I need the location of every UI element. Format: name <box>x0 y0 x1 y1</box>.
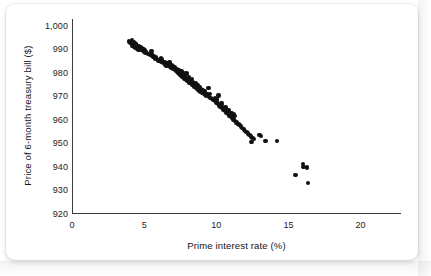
data-point <box>159 57 163 61</box>
data-point <box>143 50 147 54</box>
data-point <box>275 139 279 143</box>
data-point <box>305 165 309 169</box>
plot-area <box>72 19 401 214</box>
x-axis-title: Prime interest rate (%) <box>72 240 401 251</box>
x-tick-label: 0 <box>69 221 74 230</box>
x-tick-label: 15 <box>283 221 293 230</box>
data-point <box>175 68 179 72</box>
data-point <box>216 93 220 97</box>
x-tick-label: 5 <box>142 221 147 230</box>
data-point <box>249 140 253 144</box>
data-point <box>306 181 310 185</box>
figure-page: 9209309409509609709809901,000 05101520 P… <box>0 0 431 276</box>
data-point <box>293 173 297 177</box>
scatter-chart: 9209309409509609709809901,000 05101520 P… <box>0 0 431 276</box>
data-point <box>164 61 168 65</box>
x-tick-label: 10 <box>211 221 221 230</box>
data-point <box>263 139 267 143</box>
x-axis-tick-labels: 05101520 <box>0 221 431 235</box>
data-point <box>231 112 235 116</box>
data-point <box>194 82 198 86</box>
y-axis-title: Price of 6-month treasury bill ($) <box>22 26 33 206</box>
y-tick-label: 920 <box>26 210 68 219</box>
data-point <box>206 86 210 90</box>
x-tick-label: 20 <box>356 221 366 230</box>
data-point <box>259 134 263 138</box>
